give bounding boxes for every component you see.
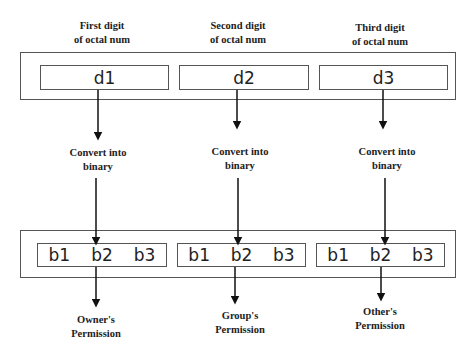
flow-arrows xyxy=(0,0,472,351)
